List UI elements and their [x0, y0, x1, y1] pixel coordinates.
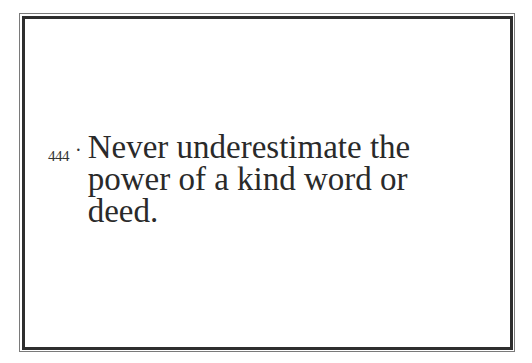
quote-block: 444 · Never underestimate the power of a…: [48, 131, 448, 227]
quote-line: power of a kind word or: [88, 163, 448, 195]
quote-text: Never underestimate the power of a kind …: [88, 131, 448, 227]
quote-number: 444: [48, 148, 69, 165]
quote-line: deed.: [88, 195, 448, 227]
quote-line: Never underestimate the: [88, 131, 448, 163]
separator-dot: ·: [75, 139, 82, 162]
